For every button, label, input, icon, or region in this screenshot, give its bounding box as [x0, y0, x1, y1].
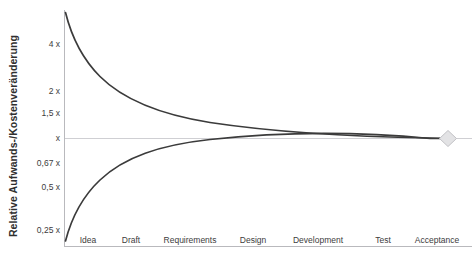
x-axis-tick-labels: Idea Draft Requirements Design Developme…	[0, 0, 474, 272]
cone-of-uncertainty-chart: Relative Aufwands-/Kostenveränderung 4 x…	[0, 0, 474, 272]
x-tick-acceptance: Acceptance	[415, 236, 459, 245]
x-tick-design: Design	[240, 236, 266, 245]
x-tick-idea: Idea	[80, 236, 97, 245]
x-tick-requirements: Requirements	[164, 236, 217, 245]
x-tick-test: Test	[375, 236, 391, 245]
x-tick-development: Development	[293, 236, 343, 245]
x-tick-draft: Draft	[122, 236, 140, 245]
